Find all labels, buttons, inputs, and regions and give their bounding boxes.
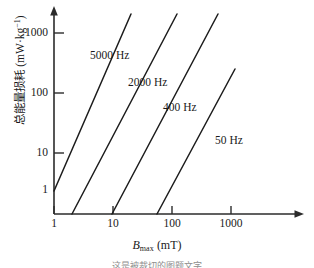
- series-label-5000hz: 5000 Hz: [90, 50, 129, 62]
- x-axis-title-symbol: B: [132, 238, 139, 252]
- figure-container: 1000 100 10 1 1 10 100 1000 5000 Hz 2000…: [0, 0, 314, 268]
- series-label-50hz: 50 Hz: [215, 135, 243, 147]
- x-tick-label-10: 10: [107, 218, 119, 230]
- x-axis-arrow-icon: [295, 210, 305, 218]
- x-axis-title-subscript: max: [140, 244, 154, 253]
- y-axis-arrow-icon: [50, 6, 58, 16]
- x-axis-title: Bmax (mT): [0, 238, 314, 253]
- series-label-400hz: 400 Hz: [163, 102, 197, 114]
- y-axis: [50, 6, 58, 214]
- x-axis-ticks: [54, 206, 231, 214]
- y-axis-title: 总能量损耗 (mW·kg−1): [11, 0, 27, 145]
- x-tick-label-1: 1: [51, 218, 57, 230]
- y-tick-label-10: 10: [4, 147, 48, 159]
- y-axis-title-cjk: 总能量损耗: [13, 70, 27, 125]
- x-tick-label-100: 100: [163, 218, 180, 230]
- y-axis-ticks: [54, 33, 64, 200]
- y-axis-title-unit-open: (mW·kg: [14, 28, 26, 70]
- data-series-group: [54, 14, 235, 214]
- series-line-5000hz: [54, 14, 131, 191]
- y-axis-title-unit-close: ): [14, 15, 26, 19]
- figure-caption: 这是被裁切的图题文字: [0, 259, 314, 268]
- series-line-400hz: [112, 14, 218, 214]
- y-axis-title-unit-exponent: −1: [13, 19, 22, 28]
- x-tick-label-1000: 1000: [220, 218, 243, 230]
- y-tick-label-1: 1: [4, 184, 48, 196]
- x-axis-title-unit: (mT): [157, 238, 182, 252]
- plot-canvas: [0, 0, 314, 268]
- series-label-2000hz: 2000 Hz: [128, 77, 167, 89]
